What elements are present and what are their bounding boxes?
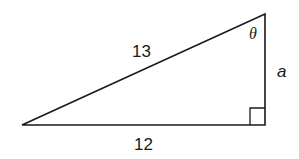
angle-label: θ — [249, 26, 257, 42]
triangle-diagram: 13 θ a 12 — [0, 0, 299, 159]
side-a-label: a — [277, 63, 286, 80]
hypotenuse-label: 13 — [132, 43, 151, 60]
right-angle-marker — [250, 108, 265, 125]
triangle-shape — [22, 14, 265, 125]
base-label: 12 — [134, 136, 153, 153]
